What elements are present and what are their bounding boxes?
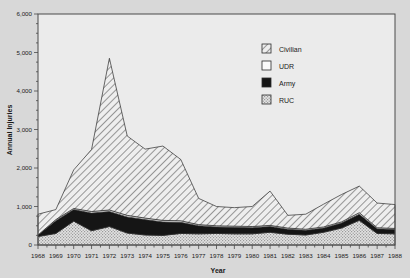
x-axis-ticks — [38, 245, 395, 249]
y-tick-label: 6,000 — [17, 10, 33, 17]
x-axis-title: Year — [211, 267, 226, 274]
y-tick-label: 5,000 — [17, 49, 33, 56]
y-tick-label: 0 — [29, 241, 33, 248]
legend-label-civilian: Civilian — [279, 46, 302, 53]
x-tick-label: 1986 — [352, 252, 366, 259]
x-tick-label: 1988 — [388, 252, 402, 259]
x-tick-label: 1985 — [335, 252, 349, 259]
x-tick-label: 1970 — [67, 252, 81, 259]
x-tick-label: 1987 — [370, 252, 384, 259]
x-tick-label: 1979 — [227, 252, 241, 259]
x-tick-label: 1982 — [281, 252, 295, 259]
legend-swatch-udr — [262, 61, 271, 70]
x-tick-label: 1969 — [49, 252, 63, 259]
y-tick-label: 2,000 — [17, 164, 33, 171]
legend-swatch-civilian — [262, 44, 271, 53]
x-tick-label: 1984 — [317, 252, 331, 259]
legend-label-army: Army — [279, 80, 296, 88]
x-tick-label: 1980 — [245, 252, 259, 259]
y-tick-label: 4,000 — [17, 87, 33, 94]
legend-label-ruc: RUC — [279, 97, 294, 104]
x-tick-label: 1981 — [263, 252, 277, 259]
x-tick-label: 1975 — [156, 252, 170, 259]
y-axis-title: Annual Injuries — [6, 105, 14, 156]
x-tick-label: 1977 — [192, 252, 206, 259]
x-tick-label: 1983 — [299, 252, 313, 259]
y-tick-label: 3,000 — [17, 126, 33, 133]
legend-label-udr: UDR — [279, 63, 294, 70]
x-tick-label: 1974 — [138, 252, 152, 259]
legend-swatch-army — [262, 78, 271, 87]
legend-swatch-ruc — [262, 95, 271, 104]
x-axis-tick-labels: 1968196919701971197219731974197519761977… — [31, 252, 402, 259]
chart-container: 01,0002,0003,0004,0005,0006,000 19681969… — [0, 0, 410, 278]
x-tick-label: 1972 — [103, 252, 117, 259]
stacked-area-chart: 01,0002,0003,0004,0005,0006,000 19681969… — [0, 0, 410, 278]
x-tick-label: 1973 — [120, 252, 134, 259]
x-tick-label: 1976 — [174, 252, 188, 259]
x-tick-label: 1971 — [85, 252, 99, 259]
x-tick-label: 1968 — [31, 252, 45, 259]
x-tick-label: 1978 — [210, 252, 224, 259]
y-tick-label: 1,000 — [17, 203, 33, 210]
